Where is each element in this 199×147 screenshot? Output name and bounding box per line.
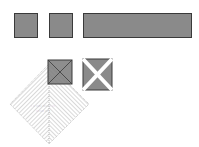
overlay-square — [48, 60, 72, 84]
diamond-label-1: · ·· ······ ········· ··· — [31, 104, 55, 108]
diagram-canvas — [0, 0, 199, 147]
diamond-label-2: ········ ···· · — [36, 109, 50, 113]
cross-square — [83, 59, 112, 90]
